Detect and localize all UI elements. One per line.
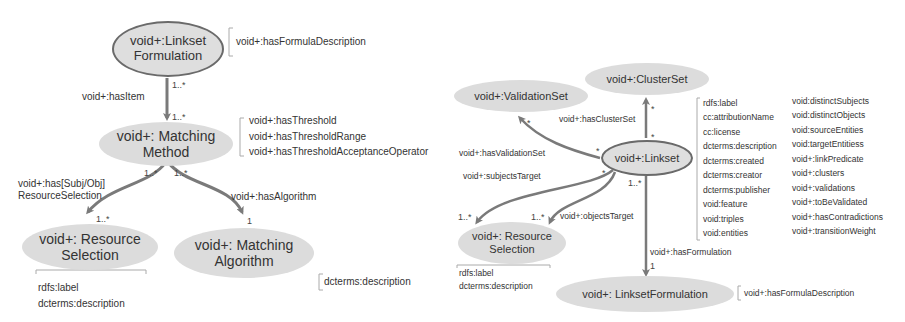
prop-item: cc:attributionName [703,110,777,124]
node-matching-method: void+: MatchingMethod [99,122,233,166]
prop-item: void+:hasContradictions [792,210,883,224]
prop-item: dcterms:creator [703,168,777,182]
prop-rdfs-label: rdfs:label [459,267,533,280]
node-resource-selection-right: void+: ResourceSelection [458,222,566,264]
node-matching-algorithm: void+: MatchingAlgorithm [174,228,314,278]
card-formulation-src: 1..* [628,178,642,188]
prop-item: void:feature [703,197,777,211]
linkset-properties-col1: rdfs:label cc:attributionName cc:license… [697,96,777,240]
card-cluster-dst: * [651,104,655,114]
edge-label-subjects-target: void+:subjectsTarget [463,171,541,181]
prop-item: cc:license [703,125,777,139]
node-label: Selection [39,247,141,263]
node-label: void+: LinksetFormulation [582,288,708,301]
node-label: void+: Matching [195,237,293,253]
prop-item: void+:transitionWeight [792,224,883,238]
prop-item: void:distinctObjects [792,108,883,122]
edge-label-has-algorithm: void+:hasAlgorithm [231,191,316,203]
node-cluster-set: void+:ClusterSet [585,63,709,95]
card-objects-dst: 1..* [531,212,545,222]
prop-item: dcterms:description [703,139,777,153]
edge-label-line: void+:has[Subj/Obj] [18,178,105,190]
card-subjects-dst: 1..* [458,212,472,222]
card-has-item-src: 1..* [172,80,186,90]
card-validation-dst: * [527,118,531,128]
edge-label-objects-target: void+:objectsTarget [560,211,633,221]
prop-rdfs-label: rdfs:label [38,280,125,296]
prop-has-threshold: void+:hasThreshold [249,113,428,129]
edge-label-has-validation-set: void+:hasValidationSet [459,148,545,158]
prop-item: dcterms:publisher [703,183,777,197]
edge-label-has-resource-selection: void+:has[Subj/Obj] ResourceSelection [18,178,105,202]
edge-label-has-formulation: void+:hasFormulation [650,247,732,257]
prop-has-threshold-acceptance-operator: void+:hasThresholdAcceptanceOperator [249,144,428,160]
prop-dcterms-description: dcterms:description [38,296,125,312]
prop-item: void:targetEntitiess [792,137,883,151]
prop-item: void+:validations [792,181,883,195]
node-label: void+:ValidationSet [474,90,568,103]
card-alg-dst: 1 [247,216,252,226]
prop-algorithm-description: dcterms:description [324,276,411,288]
prop-item: void:entities [703,226,777,240]
prop-item: void+:linkPredicate [792,152,883,166]
edge-label-line: ResourceSelection [18,190,105,202]
node-label: void+:Linkset [130,34,206,49]
edge-label-has-cluster-set: void+:hasClusterSet [559,114,635,124]
node-label: void+: Resource [39,231,141,247]
resource-selection-right-properties: rdfs:label dcterms:description [459,267,533,293]
node-label: void+:ClusterSet [606,73,687,86]
prop-dcterms-description: dcterms:description [459,280,533,293]
card-rs-src: 1..* [144,168,158,178]
prop-has-threshold-range: void+:hasThresholdRange [249,129,428,145]
card-has-item-dst: 1..* [172,112,186,122]
node-linkset-formulation: void+:LinksetFormulation [112,21,224,77]
prop-item: dcterms:created [703,154,777,168]
node-label: Formulation [130,49,206,64]
node-resource-selection: void+: ResourceSelection [22,224,158,270]
card-subjects-src: * [602,168,606,178]
node-validation-set: void+:ValidationSet [454,80,588,112]
node-label: Algorithm [195,253,293,269]
card-validation-src: * [596,146,600,156]
node-linkset: void+:Linkset [601,140,693,176]
linkset-properties-col2: void:distinctSubjects void:distinctObjec… [792,94,883,238]
card-rs-dst: 1..* [96,214,110,224]
prop-has-formula-description-right: void+:hasFormulaDescription [744,288,854,298]
card-formulation-dst: 1 [650,261,655,271]
node-label: Method [117,144,215,160]
node-label: void+: Resource [472,230,552,243]
node-label: Selection [472,243,552,256]
prop-item: void:distinctSubjects [792,94,883,108]
prop-item: void:sourceEntities [792,123,883,137]
node-label: void+:Linkset [615,152,680,165]
prop-item: rdfs:label [703,96,777,110]
prop-item: void+:clusters [792,166,883,180]
prop-has-formula-description: void+:hasFormulaDescription [236,36,366,48]
node-label: void+: Matching [117,128,215,144]
prop-item: void:triples [703,212,777,226]
resource-selection-properties: rdfs:label dcterms:description [38,280,125,311]
prop-item: void+:toBeValidated [792,195,883,209]
card-alg-src: 1..* [174,168,188,178]
node-linkset-formulation-right: void+: LinksetFormulation [556,276,734,312]
edge-label-has-item: void+:hasItem [82,91,145,103]
method-properties: void+:hasThreshold void+:hasThresholdRan… [249,113,428,160]
